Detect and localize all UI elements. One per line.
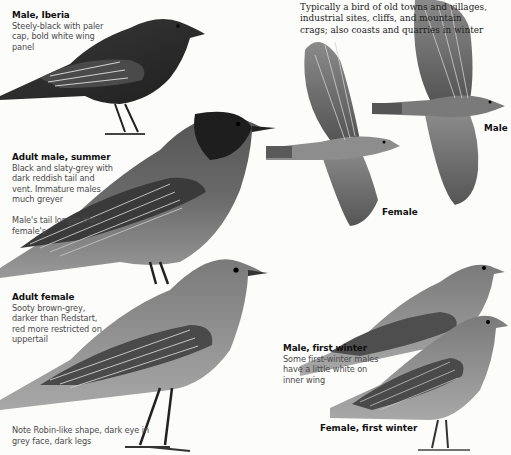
note-identification: Note Robin-like shape, dark eye in grey … [12, 425, 152, 446]
caption-male-iberia: Male, Iberia Steely-black with paler cap… [12, 10, 112, 52]
label-female-first-winter: Female, first winter [320, 423, 417, 433]
caption-desc: Black and slaty-grey with dark reddish t… [12, 163, 116, 205]
caption-adult-female: Adult female Sooty brown-grey, darker th… [12, 292, 112, 345]
caption-title: Male, first winter [283, 343, 383, 354]
caption-desc: Sooty brown-grey, darker than Redstart, … [12, 303, 112, 345]
bird-flight-female [266, 42, 400, 226]
caption-title: Adult male, summer [12, 152, 116, 163]
caption-male-first-winter: Male, first winter Some first-winter mal… [283, 343, 383, 385]
caption-desc: Some first-winter males have a little wh… [283, 354, 383, 386]
field-guide-page: Typically a bird of old towns and villag… [0, 0, 511, 455]
bird-adult-female [0, 259, 268, 451]
label-flight-male: Male [484, 123, 508, 133]
caption-desc: Steely-black with paler cap, bold white … [12, 21, 112, 53]
label-flight-female: Female [382, 207, 418, 217]
caption-adult-male-summer: Adult male, summer Black and slaty-grey … [12, 152, 116, 236]
habitat-intro: Typically a bird of old towns and villag… [300, 2, 490, 36]
caption-note: Male's tail longer than female's [12, 215, 116, 236]
caption-title: Male, Iberia [12, 10, 112, 21]
note-text: Note Robin-like shape, dark eye in grey … [12, 425, 152, 446]
caption-title: Adult female [12, 292, 112, 303]
